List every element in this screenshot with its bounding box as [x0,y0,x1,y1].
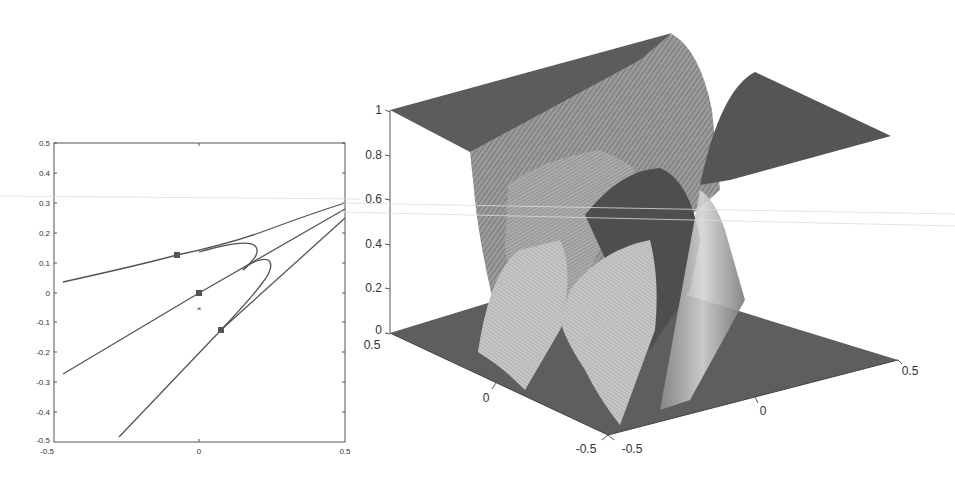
svg-text:-0.5: -0.5 [40,447,54,456]
svg-text:0: 0 [46,289,51,298]
svg-text:0.4: 0.4 [365,237,382,251]
svg-text:-0.5: -0.5 [36,436,50,445]
left-plot-markers: × [174,252,224,333]
svg-text:0.1: 0.1 [39,259,51,268]
left-y-tick-labels: 0.5 0.4 0.3 0.2 0.1 0 -0.1 -0.2 -0.3 -0.… [36,139,50,445]
svg-text:0: 0 [197,447,202,456]
svg-text:-0.2: -0.2 [36,348,50,357]
svg-text:0: 0 [760,404,767,418]
cross-marker: × [197,304,202,313]
left-plot-curves [63,203,345,437]
svg-text:0.5: 0.5 [902,364,919,378]
left-plot-canvas: 0.5 0.4 0.3 0.2 0.1 0 -0.1 -0.2 -0.3 -0.… [0,0,360,481]
surface-right-plateau [700,72,891,185]
right-3d-surface-plot: 1 0.8 0.6 0.4 0.2 0 [340,0,955,481]
svg-text:-0.4: -0.4 [36,408,50,417]
svg-text:-0.1: -0.1 [36,318,50,327]
middle-line [63,209,345,374]
left-x-tick-labels: -0.5 0 0.5 [40,447,351,456]
svg-text:0.2: 0.2 [365,281,382,295]
z-axis [385,110,390,334]
z-tick-labels: 1 0.8 0.6 0.4 0.2 0 [365,103,382,337]
svg-text:0.3: 0.3 [39,199,51,208]
upper-curve [63,203,345,282]
svg-text:0.2: 0.2 [39,229,51,238]
svg-text:0: 0 [483,391,490,405]
left-2d-plot: 0.5 0.4 0.3 0.2 0.1 0 -0.1 -0.2 -0.3 -0.… [0,0,360,481]
square-marker [218,327,224,333]
svg-text:0.5: 0.5 [364,338,381,352]
svg-text:0: 0 [375,323,382,337]
fold-curve-2 [221,259,271,330]
svg-text:1: 1 [375,103,382,117]
svg-text:-0.5: -0.5 [622,442,643,456]
square-marker [174,252,180,258]
surface-canvas: 1 0.8 0.6 0.4 0.2 0 [340,0,955,481]
svg-text:-0.5: -0.5 [576,442,597,456]
svg-text:0.4: 0.4 [39,169,51,178]
svg-text:0.8: 0.8 [365,148,382,162]
lower-line [119,218,345,437]
square-marker [196,290,202,296]
svg-text:0.5: 0.5 [39,139,51,148]
svg-text:-0.3: -0.3 [36,378,50,387]
left-y-ticks [54,143,345,412]
